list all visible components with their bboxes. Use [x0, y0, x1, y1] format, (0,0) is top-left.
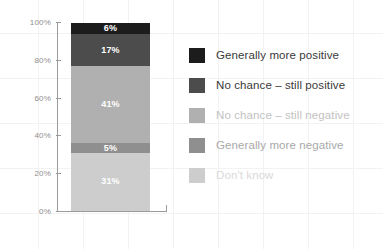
legend-item-label: No chance – still positive	[216, 79, 345, 91]
y-axis-tick-mark	[56, 211, 61, 212]
bar-segment-value-label: 6%	[104, 24, 117, 33]
bar-segment: 31%	[71, 153, 150, 211]
bar-segment: 6%	[71, 23, 150, 34]
y-axis-tick-label: 20%	[34, 169, 51, 178]
legend-item[interactable]: Generally more positive	[189, 40, 350, 70]
y-axis-tick-mark	[56, 60, 61, 61]
y-axis-tick-mark	[56, 173, 61, 174]
chart-legend: Generally more positiveNo chance – still…	[189, 40, 350, 190]
y-axis-tick-label: 40%	[34, 131, 51, 140]
y-axis-tick-mark	[56, 135, 61, 136]
bar-segment: 5%	[71, 143, 150, 152]
stacked-bar-chart: 0%20%40%60%80%100% 6%17%41%5%31% General…	[0, 0, 383, 249]
x-axis-end-tick	[166, 205, 167, 212]
y-axis-tick-label: 60%	[34, 93, 51, 102]
plot-area: 0%20%40%60%80%100% 6%17%41%5%31%	[57, 22, 167, 212]
legend-item-label: Don't know	[216, 169, 274, 181]
legend-color-swatch	[189, 108, 205, 123]
legend-color-swatch	[189, 138, 205, 153]
y-axis-tick-mark	[56, 98, 61, 99]
legend-color-swatch	[189, 48, 205, 63]
y-axis-tick-label: 80%	[34, 55, 51, 64]
legend-item[interactable]: No chance – still negative	[189, 100, 350, 130]
x-axis-line	[57, 211, 167, 212]
legend-item[interactable]: Generally more negative	[189, 130, 350, 160]
y-axis-tick-mark	[56, 22, 61, 23]
y-axis-tick-label: 0%	[39, 207, 51, 216]
y-axis-line	[57, 22, 58, 212]
stacked-bar: 6%17%41%5%31%	[71, 23, 150, 211]
legend-item-label: Generally more negative	[216, 139, 344, 151]
legend-item-label: Generally more positive	[216, 49, 339, 61]
bar-segment-value-label: 31%	[101, 177, 120, 186]
legend-item[interactable]: Don't know	[189, 160, 350, 190]
bar-segment: 41%	[71, 66, 150, 143]
legend-color-swatch	[189, 78, 205, 93]
legend-item-label: No chance – still negative	[216, 109, 350, 121]
bar-segment: 17%	[71, 34, 150, 66]
legend-color-swatch	[189, 168, 205, 183]
y-axis-tick-label: 100%	[30, 18, 51, 27]
legend-item[interactable]: No chance – still positive	[189, 70, 350, 100]
bar-segment-value-label: 41%	[101, 100, 120, 109]
bar-segment-value-label: 17%	[101, 46, 120, 55]
bar-segment-value-label: 5%	[104, 144, 117, 153]
